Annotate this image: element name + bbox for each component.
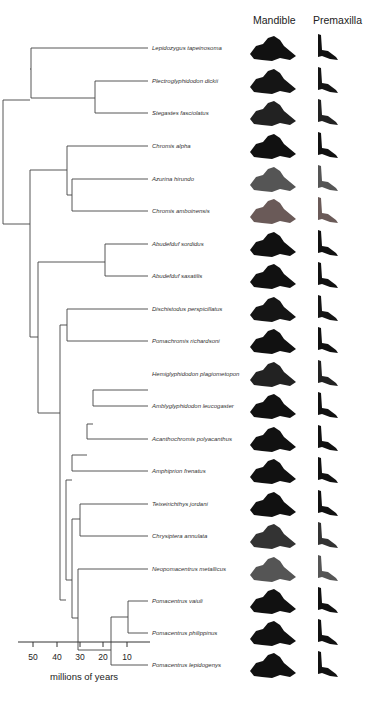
mandible-header: Mandible	[253, 14, 296, 26]
tick-label: 20	[98, 652, 107, 662]
taxon-label: Teixeirichthys jordani	[152, 500, 208, 508]
taxon-label: Acanthochromis polyacanthus	[152, 435, 232, 443]
taxon-label: Hemiglyphidodon plagiometopon	[152, 370, 239, 378]
axis-label: millions of years	[50, 671, 118, 682]
premaxilla-image	[318, 425, 338, 451]
mandible-image	[250, 427, 296, 452]
premaxilla-image	[318, 34, 338, 60]
premaxilla-image	[318, 392, 338, 418]
tick-label: 30	[75, 652, 84, 662]
premaxilla-image	[318, 67, 338, 93]
mandible-image	[250, 459, 296, 484]
mandible-image	[250, 394, 296, 419]
mandible-image	[250, 492, 296, 517]
mandible-image	[250, 101, 296, 126]
premaxilla-image	[318, 651, 338, 677]
tick-label: 10	[122, 652, 131, 662]
taxon-label: Abudefduf sordidus	[152, 240, 204, 248]
mandible-image	[250, 362, 296, 387]
tick-label: 50	[28, 652, 37, 662]
premaxilla-image	[318, 132, 338, 158]
mandible-image	[250, 621, 296, 646]
taxon-label: Abudefduf saxatilis	[152, 272, 202, 280]
mandible-image	[250, 653, 296, 678]
premaxilla-image	[318, 99, 338, 125]
taxon-label: Amphiprion frenatus	[152, 467, 206, 475]
mandible-image	[250, 297, 296, 322]
taxon-label: Lepidozygus tapeinosoma	[152, 44, 222, 52]
mandible-image	[250, 36, 296, 61]
taxon-label: Plectroglyphidodon dickii	[152, 77, 218, 85]
mandible-image	[250, 167, 296, 192]
premaxilla-image	[318, 165, 338, 191]
taxon-label: Pomachromis richardsoni	[152, 337, 220, 345]
premaxilla-image	[318, 295, 338, 321]
premaxilla-image	[318, 522, 338, 548]
taxon-label: Chromis alpha	[152, 142, 191, 150]
mandible-image	[250, 134, 296, 159]
phylogenetic-tree	[0, 0, 371, 713]
taxon-label: Pomacentrus vaiuli	[152, 597, 203, 605]
tick-label: 40	[52, 652, 61, 662]
premaxilla-image	[318, 490, 338, 516]
mandible-image	[250, 329, 296, 354]
premaxilla-image	[318, 197, 338, 223]
premaxilla-image	[318, 230, 338, 256]
taxon-label: Pomacentrus philippinus	[152, 629, 217, 637]
premaxilla-image	[318, 360, 338, 386]
taxon-label: Chromis amboinensis	[152, 207, 210, 215]
taxon-label: Azurina hirundo	[152, 175, 194, 183]
mandible-image	[250, 69, 296, 94]
premaxilla-header: Premaxilla	[313, 14, 362, 26]
taxon-label: Chrysiptera annulata	[152, 532, 207, 540]
mandible-image	[250, 557, 296, 582]
mandible-image	[250, 524, 296, 549]
premaxilla-image	[318, 587, 338, 613]
premaxilla-image	[318, 457, 338, 483]
taxon-label: Dischistodus perspicillatus	[152, 305, 222, 313]
premaxilla-image	[318, 555, 338, 581]
taxon-label: Pomacentrus lepidogenys	[152, 661, 221, 669]
mandible-image	[250, 199, 296, 224]
premaxilla-image	[318, 262, 338, 288]
premaxilla-image	[318, 619, 338, 645]
taxon-label: Neopomacentrus metallicus	[152, 565, 226, 573]
taxon-label: Stegastes fasciolatus	[152, 109, 209, 117]
mandible-image	[250, 589, 296, 614]
premaxilla-image	[318, 327, 338, 353]
mandible-image	[250, 232, 296, 257]
taxon-label: Amblyglyphidodon leucogaster	[152, 402, 234, 410]
mandible-image	[250, 264, 296, 289]
